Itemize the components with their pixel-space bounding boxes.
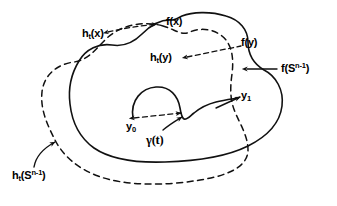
y0-leader — [134, 113, 181, 118]
label-h-t-sphere-sup: n-1 — [31, 168, 42, 177]
label-f-x-text: f(x) — [166, 15, 182, 27]
label-f-sphere: f(Sn-1) — [281, 63, 309, 74]
label-y0-sub: 0 — [132, 125, 136, 134]
label-h-t-x-sub: t — [89, 32, 91, 41]
label-gamma-t-text: γ(t) — [146, 133, 164, 147]
label-f-sphere-base: f(S — [281, 62, 295, 74]
label-y1: y1 — [241, 90, 251, 101]
label-y0: y0 — [126, 121, 136, 132]
label-f-y: f(y) — [241, 37, 257, 48]
label-f-sphere-sup: n-1 — [295, 61, 306, 70]
label-h-t-sphere-tail: ) — [42, 169, 45, 181]
math-diagram-figure: ht(x) f(x) f(y) ht(y) f(Sn-1) ht(Sn-1) y… — [0, 0, 337, 206]
y1-leader — [216, 97, 240, 108]
label-h-t-y-base: h — [150, 51, 157, 63]
label-h-t-x: ht(x) — [82, 28, 104, 39]
label-h-t-y: ht(y) — [150, 52, 172, 63]
label-h-t-sphere: ht(Sn-1) — [12, 170, 46, 181]
label-h-t-y-sub: t — [157, 56, 159, 65]
label-f-y-text: f(y) — [241, 36, 257, 48]
label-h-t-sphere-sub: t — [19, 174, 21, 183]
label-f-x: f(x) — [166, 16, 182, 27]
label-h-t-x-base: h — [82, 27, 89, 39]
h-t-sphere-leader — [34, 142, 55, 167]
h-t-sphere-curve — [42, 24, 248, 184]
label-h-t-sphere-base: h — [12, 169, 19, 181]
label-h-t-y-arg: (y) — [159, 51, 172, 63]
gamma-curve — [133, 87, 238, 119]
label-h-t-x-arg: (x) — [91, 27, 104, 39]
gamma-leader — [163, 117, 182, 130]
label-f-sphere-tail: ) — [306, 62, 309, 74]
label-y1-sub: 1 — [247, 94, 251, 103]
h-t-y-leader — [187, 46, 241, 57]
diagram-canvas — [0, 0, 337, 206]
label-h-t-sphere-mid: (S — [21, 169, 32, 181]
label-gamma-t: γ(t) — [146, 134, 164, 147]
